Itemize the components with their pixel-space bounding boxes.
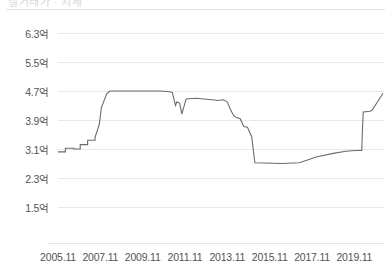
- chart-screenshot: 실거래가 · 시세 6.3억5.5억4.7억3.9억3.1억2.3억1.5억 2…: [0, 0, 391, 271]
- y-tick-label: 3.9억: [0, 113, 49, 128]
- y-tick-label: 1.5억: [0, 200, 49, 215]
- y-tick-label: 5.5억: [0, 55, 49, 70]
- price-line-series: [58, 91, 383, 164]
- gridline-group: [58, 34, 384, 208]
- y-tick-label: 3.1억: [0, 142, 49, 157]
- y-tick-label: 2.3억: [0, 171, 49, 186]
- chart-canvas: [0, 0, 391, 271]
- y-tick-label: 4.7억: [0, 84, 49, 99]
- y-tick-label: 6.3억: [0, 26, 49, 41]
- x-tick-label: 2019.11: [324, 251, 384, 263]
- price-line-chart: 6.3억5.5억4.7억3.9억3.1억2.3억1.5억 2005.112007…: [0, 0, 391, 271]
- bottom-divider: [48, 243, 384, 244]
